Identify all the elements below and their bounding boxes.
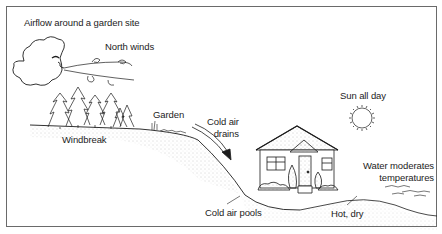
label-water-moderates: Water moderates temperatures: [363, 161, 434, 183]
label-cold-air-pools: Cold air pools: [205, 208, 262, 218]
windbreak-trees-icon: [48, 87, 134, 129]
label-water-line2: temperatures: [363, 173, 434, 183]
label-north-winds: North winds: [105, 42, 154, 52]
label-cold-air-drains-line2: drains: [207, 129, 239, 139]
wind-cloud-face-icon: [13, 37, 65, 86]
label-hot-dry: Hot, dry: [331, 209, 363, 219]
label-cold-air-drains-line1: Cold air: [207, 117, 239, 127]
water-icon: [385, 186, 430, 197]
wind-swirls-icon: [64, 58, 134, 85]
label-water-line1: Water moderates: [363, 161, 434, 171]
label-garden: Garden: [153, 110, 184, 120]
label-cold-air-drains: Cold air drains: [207, 117, 239, 139]
label-sun-all-day: Sun all day: [340, 91, 386, 101]
sun-icon: [349, 105, 375, 131]
house-icon: [256, 126, 338, 193]
diagram-title: Airflow around a garden site: [24, 18, 140, 28]
label-windbreak: Windbreak: [62, 135, 107, 145]
